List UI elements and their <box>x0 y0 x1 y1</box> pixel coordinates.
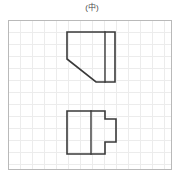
top-view-group <box>67 32 115 82</box>
front-view-group <box>67 111 116 154</box>
figure-root: (中) <box>0 0 184 178</box>
figure-caption: (中) <box>0 2 184 13</box>
grid-panel <box>8 20 172 170</box>
technical-drawing <box>9 21 172 170</box>
top-view-outline <box>67 32 115 82</box>
